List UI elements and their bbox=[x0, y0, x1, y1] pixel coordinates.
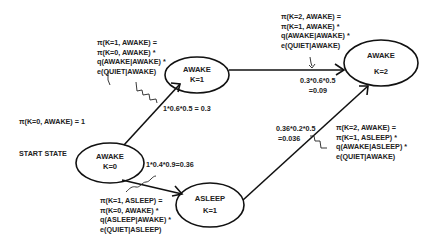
annotation-line: π(K=1, AWAKE) * bbox=[281, 22, 350, 32]
edge-value-line: =0.036 bbox=[276, 134, 316, 144]
node-step: K=1 bbox=[172, 75, 222, 85]
edge-value-line: 0.36*0.2*0.5 bbox=[276, 124, 316, 134]
arrowhead-icon bbox=[172, 186, 182, 196]
node-step: K=2 bbox=[356, 67, 406, 77]
edge-value-line: 0.3*0.6*0.5 bbox=[300, 76, 336, 86]
node-state: AWAKE bbox=[172, 65, 222, 75]
pointer-squiggle-icon bbox=[309, 57, 315, 68]
node-awake-k0-label: AWAKE K=0 bbox=[85, 152, 135, 172]
annotation-line: π(K=2, AWAKE) = bbox=[281, 12, 350, 22]
annotation-awake-k2-from-awake: π(K=2, AWAKE) = π(K=1, AWAKE) * q(AWAKE|… bbox=[281, 12, 350, 50]
annotation-line: e(QUIET|AWAKE) bbox=[97, 67, 166, 77]
annotation-asleep-k1: π(K=1, ASLEEP) = π(K=0, AWAKE) * q(ASLEE… bbox=[100, 196, 171, 234]
annotation-line: π(K=1, ASLEEP) * bbox=[336, 133, 407, 143]
annotation-line: q(ASLEEP|AWAKE) * bbox=[100, 215, 171, 225]
annotation-line: q(AWAKE|ASLEEP) * bbox=[336, 142, 407, 152]
annotation-line: e(QUIET|AWAKE) bbox=[336, 152, 407, 162]
node-awake-k2-label: AWAKE K=2 bbox=[356, 51, 406, 77]
node-awake-k1-label: AWAKE K=1 bbox=[172, 65, 222, 85]
annotation-line: e(QUIET|ASLEEP) bbox=[100, 225, 171, 235]
node-step: K=0 bbox=[85, 162, 135, 172]
node-step: K=1 bbox=[185, 206, 235, 216]
annotation-line: q(AWAKE|AWAKE) * bbox=[281, 31, 350, 41]
annotation-line: π(K=0, AWAKE) * bbox=[97, 48, 166, 58]
annotation-awake-k2-from-asleep: π(K=2, AWAKE) = π(K=1, ASLEEP) * q(AWAKE… bbox=[336, 123, 407, 161]
node-asleep-k1-label: ASLEEP K=1 bbox=[185, 194, 235, 216]
edge-k0-to-awake-k1 bbox=[124, 84, 180, 145]
annotation-line: π(K=1, AWAKE) = bbox=[97, 38, 166, 48]
edge-value-k0-awake-k1: 1*0.6*0.5 = 0.3 bbox=[163, 104, 211, 114]
start-init-formula: π(K=0, AWAKE) = 1 bbox=[19, 117, 85, 127]
edge-value-k0-asleep-k1: 1*0.4*0.9=0.36 bbox=[146, 160, 194, 170]
edge-k0-to-asleep-k1 bbox=[122, 180, 182, 194]
start-state-label: START STATE bbox=[19, 149, 67, 159]
annotation-line: e(QUIET|AWAKE) bbox=[281, 41, 350, 51]
node-state: AWAKE bbox=[356, 51, 406, 61]
edge-value-line: =0.09 bbox=[300, 86, 336, 96]
edge-value-awake-k1-awake-k2: 0.3*0.6*0.5 =0.09 bbox=[300, 76, 336, 95]
annotation-awake-k1: π(K=1, AWAKE) = π(K=0, AWAKE) * q(AWAKE|… bbox=[97, 38, 166, 76]
annotation-line: π(K=1, ASLEEP) = bbox=[100, 196, 171, 206]
annotation-line: π(K=2, AWAKE) = bbox=[336, 123, 407, 133]
node-state: ASLEEP bbox=[185, 194, 235, 204]
node-state: AWAKE bbox=[85, 152, 135, 162]
pointer-squiggle-icon bbox=[136, 82, 157, 103]
annotation-line: q(AWAKE|AWAKE) * bbox=[97, 57, 166, 67]
annotation-line: π(K=0, AWAKE) * bbox=[100, 206, 171, 216]
edge-value-asleep-k1-awake-k2: 0.36*0.2*0.5 =0.036 bbox=[276, 124, 316, 143]
